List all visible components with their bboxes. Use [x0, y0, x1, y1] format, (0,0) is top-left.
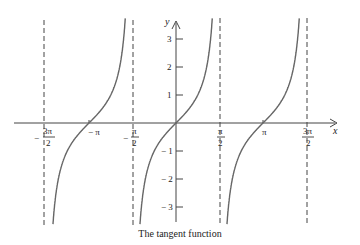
x-tick-neg-pi: − π [88, 127, 100, 137]
svg-text:2: 2 [132, 138, 137, 148]
tangent-graph: x y 3 2 1 − 1 − 2 − 3 − 3π 2 − π [0, 0, 360, 245]
svg-text:−: − [123, 133, 128, 143]
y-tick-neg-1: − 1 [161, 146, 173, 156]
y-tick-neg-2: − 2 [161, 174, 173, 184]
x-tick-pi: π [262, 127, 267, 137]
svg-text:π: π [132, 126, 137, 136]
svg-text:−: − [34, 133, 39, 143]
x-tick-3pi-2: 3π 2 [302, 126, 314, 148]
y-tick-3: 3 [167, 34, 172, 44]
svg-text:π: π [262, 127, 267, 137]
y-axis-label: y [164, 16, 170, 27]
svg-text:3π: 3π [43, 126, 53, 136]
svg-text:3π: 3π [303, 126, 313, 136]
svg-text:− π: − π [88, 127, 100, 137]
svg-text:2: 2 [218, 138, 223, 148]
svg-text:π: π [218, 126, 223, 136]
svg-text:2: 2 [306, 138, 311, 148]
y-tick-neg-3: − 3 [161, 202, 173, 212]
y-tick-1: 1 [167, 90, 172, 100]
y-tick-2: 2 [167, 62, 172, 72]
x-axis-label: x [332, 125, 338, 136]
svg-text:2: 2 [46, 138, 51, 148]
figure-caption: The tangent function [0, 228, 360, 239]
x-tick-neg-pi-2: − π 2 [123, 126, 139, 148]
x-tick-pi-2: π 2 [217, 126, 225, 148]
